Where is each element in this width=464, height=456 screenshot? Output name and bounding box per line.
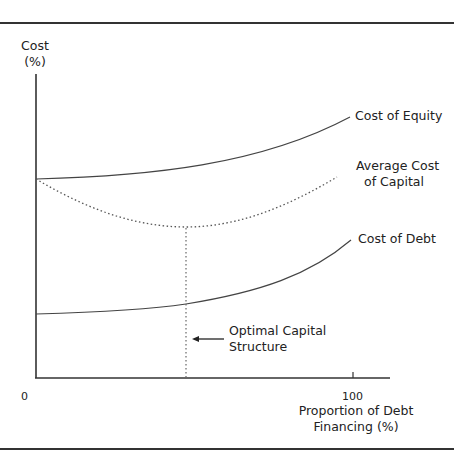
wacc-label-line2: of Capital: [356, 174, 432, 190]
optimal-label-line1: Optimal Capital: [229, 323, 326, 339]
x-tick-label-0: 0: [21, 389, 28, 405]
cost-of-equity-curve: [36, 117, 350, 179]
debt-label: Cost of Debt: [358, 231, 436, 247]
optimal-label-line2: Structure: [229, 339, 326, 355]
cost-of-debt-curve: [36, 240, 351, 314]
wacc-curve: [36, 177, 337, 227]
x-axis-label-line2: Financing (%): [296, 419, 416, 435]
chart-plot: [0, 0, 464, 456]
y-axis-label-line1: Cost: [10, 38, 60, 54]
y-axis-label-line2: (%): [10, 54, 60, 70]
equity-label: Cost of Equity: [355, 108, 442, 124]
y-axis-label: Cost (%): [10, 38, 60, 70]
x-axis-label: Proportion of Debt Financing (%): [296, 403, 416, 435]
arrowhead-icon: [192, 336, 199, 342]
optimal-label: Optimal Capital Structure: [229, 323, 326, 355]
x-axis-label-line1: Proportion of Debt: [296, 403, 416, 419]
wacc-label-line1: Average Cost: [356, 158, 432, 174]
wacc-label: Average Cost of Capital: [356, 158, 432, 190]
